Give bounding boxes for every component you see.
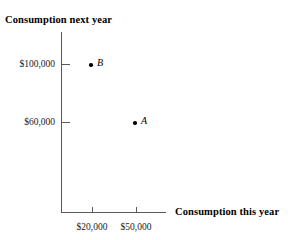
x-tick-mark-50000 <box>136 207 137 213</box>
data-point-marker-icon <box>89 63 93 67</box>
x-tick-label-20000: $20,000 <box>67 222 117 232</box>
data-point-label-b: B <box>97 57 103 68</box>
data-point-marker-icon <box>133 121 137 125</box>
y-tick-mark-60000 <box>62 122 70 123</box>
y-tick-label-60000: $60,000 <box>24 117 55 127</box>
data-point-label-a: A <box>141 115 147 126</box>
x-tick-label-50000: $50,000 <box>111 222 161 232</box>
consumption-scatter-chart: Consumption next year $100,000 $60,000 $… <box>0 0 294 240</box>
y-axis-title: Consumption next year <box>5 14 112 25</box>
y-tick-mark-100000 <box>62 64 70 65</box>
x-tick-mark-20000 <box>92 207 93 213</box>
x-axis-line <box>61 212 166 213</box>
y-tick-label-100000: $100,000 <box>19 59 55 69</box>
x-axis-title: Consumption this year <box>175 206 279 217</box>
